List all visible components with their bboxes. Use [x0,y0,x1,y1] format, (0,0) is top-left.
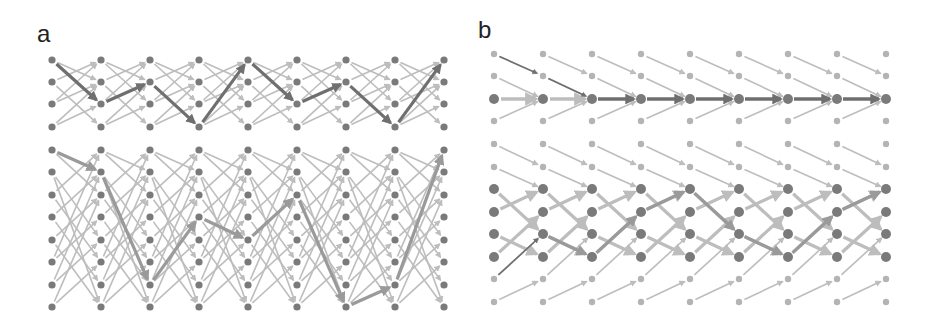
node [48,168,55,175]
node [244,191,251,198]
node [636,94,646,104]
node [195,191,202,198]
node [440,213,447,220]
node [342,56,349,63]
highlight-edge [792,217,831,253]
node [244,168,251,175]
highlight-edge [499,56,536,73]
background-edge [695,169,733,186]
background-edge [646,101,684,118]
node [638,276,644,282]
node [391,168,398,175]
node [736,118,742,124]
background-edge [646,169,684,186]
background-edge [57,107,95,125]
node [48,258,55,265]
node [146,191,153,198]
node [491,299,497,305]
node [244,236,251,243]
node [146,123,153,130]
node [244,100,251,107]
background-edge [499,147,537,165]
node [146,258,153,265]
node [785,51,791,57]
node [538,184,548,194]
background-edge [548,147,586,165]
background-edge [253,107,291,125]
node [785,73,791,79]
node [146,168,153,175]
node [687,73,693,79]
background-edge [695,56,733,73]
node [736,164,742,170]
background-edge [302,107,340,125]
background-edge [842,282,880,300]
node [589,141,595,147]
background-edge [597,169,635,186]
node [687,299,693,305]
node [293,168,300,175]
highlight-edge [397,156,442,280]
node [881,94,891,104]
background-edge [597,101,635,118]
node [587,207,597,217]
node [687,118,693,124]
node [881,229,891,239]
background-edge [499,79,537,97]
node [832,94,842,104]
background-edge [695,79,733,97]
node [736,299,742,305]
node [783,184,793,194]
node [636,207,646,217]
node [391,78,398,85]
node [883,299,889,305]
node [834,51,840,57]
node [195,213,202,220]
node [97,78,104,85]
node [146,236,153,243]
node [48,281,55,288]
node [195,56,202,63]
node [489,252,499,262]
node [540,164,546,170]
node [97,281,104,288]
background-edge [548,169,586,186]
background-edge [499,169,537,186]
node [293,100,300,107]
node [440,100,447,107]
node [881,207,891,217]
node [834,73,840,79]
node [589,276,595,282]
node [97,236,104,243]
background-edge [793,101,831,118]
node [883,73,889,79]
background-edge [744,79,782,97]
node [736,141,742,147]
node [589,118,595,124]
node [489,229,499,239]
background-edge [499,282,537,300]
node [48,100,55,107]
node [834,164,840,170]
panel-a-nodes [48,56,447,310]
node [391,236,398,243]
background-edge [646,56,684,73]
background-edge [793,147,831,165]
node [589,73,595,79]
highlight-edge [399,65,441,122]
node [538,229,548,239]
node [342,78,349,85]
node [48,191,55,198]
node [48,78,55,85]
node [685,94,695,104]
node [195,258,202,265]
node [342,146,349,153]
node [293,78,300,85]
node [342,100,349,107]
node [785,118,791,124]
node [540,118,546,124]
node [636,184,646,194]
node [97,303,104,310]
node [736,73,742,79]
background-edge [695,147,733,165]
